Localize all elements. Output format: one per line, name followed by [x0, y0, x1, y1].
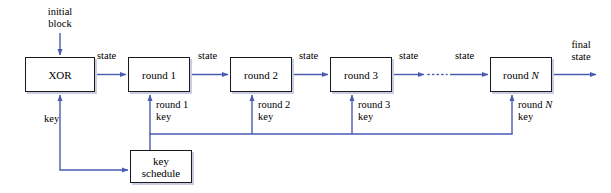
label-state-2: state [198, 50, 217, 62]
node-round-2[interactable]: round 2 [230, 57, 292, 92]
label-round-3-key: round 3 key [358, 99, 390, 122]
cipher-round-diagram: XOR round 1 round 2 round 3 round N key … [0, 0, 611, 193]
label-round-1-key: round 1 key [156, 99, 188, 122]
label-round-n-key: round Nkey [518, 99, 552, 122]
node-round-n-label: round N [503, 69, 539, 81]
node-round-1[interactable]: round 1 [128, 57, 190, 92]
label-initial-block: initial block [30, 6, 90, 29]
diagram-wiring [0, 0, 611, 193]
node-key-schedule-label: key schedule [142, 155, 180, 179]
node-round-1-label: round 1 [142, 69, 176, 81]
node-round-3[interactable]: round 3 [330, 57, 392, 92]
label-key: key [44, 113, 59, 125]
node-round-3-label: round 3 [344, 69, 378, 81]
node-xor[interactable]: XOR [25, 57, 95, 92]
label-state-5: state [455, 50, 474, 62]
label-state-3: state [299, 50, 318, 62]
label-state-1: state [97, 50, 116, 62]
node-round-n[interactable]: round N [490, 57, 552, 92]
node-key-schedule[interactable]: key schedule [130, 150, 192, 183]
label-state-4: state [399, 50, 418, 62]
label-final-state: final state [555, 39, 607, 62]
label-round-2-key: round 2 key [258, 99, 290, 122]
node-xor-label: XOR [48, 69, 71, 81]
node-round-2-label: round 2 [244, 69, 278, 81]
